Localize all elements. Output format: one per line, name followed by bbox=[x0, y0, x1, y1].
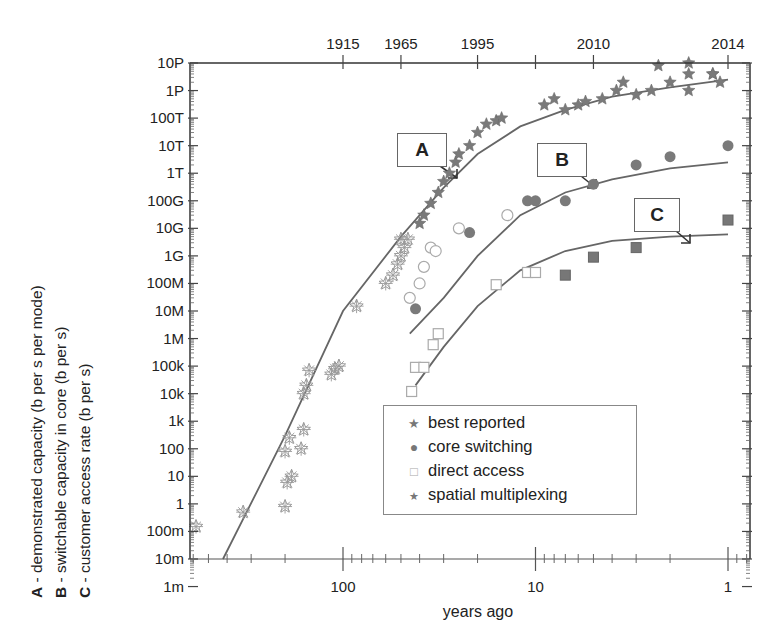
square-marker bbox=[723, 215, 733, 225]
circle-open-marker bbox=[418, 261, 429, 272]
legend: ★best reported ●core switching □direct a… bbox=[383, 405, 637, 515]
callout-c: C bbox=[634, 198, 680, 232]
circle-marker bbox=[410, 303, 421, 314]
star-marker bbox=[538, 99, 550, 111]
y-tick-label: 1G bbox=[164, 247, 184, 264]
y-tick-label: 1k bbox=[168, 412, 184, 429]
star-marker bbox=[596, 92, 608, 104]
callout-a: A bbox=[397, 133, 447, 167]
y-tick-label: 100k bbox=[151, 357, 184, 374]
asterisk-marker bbox=[285, 469, 299, 483]
square-open-marker bbox=[433, 329, 443, 339]
y-tick-label: 100m bbox=[146, 522, 184, 539]
square-open-marker bbox=[531, 267, 541, 277]
y-tick-label: 10M bbox=[155, 302, 184, 319]
y-tick-label: 1M bbox=[163, 330, 184, 347]
legend-item-best-reported: ★best reported bbox=[406, 413, 525, 432]
star-icon: ★ bbox=[406, 490, 422, 503]
chart-canvas: 10P1P100T10T1T100G10G1G100M10M1M100k10k1… bbox=[0, 0, 771, 638]
square-open-marker bbox=[407, 386, 417, 396]
square-marker bbox=[631, 243, 641, 253]
asterisk-marker bbox=[332, 359, 346, 373]
circle-marker bbox=[665, 151, 676, 162]
top-tick-label: 2014 bbox=[711, 35, 744, 52]
y-tick-label: 1m bbox=[163, 578, 184, 595]
top-tick-label: 1915 bbox=[326, 35, 359, 52]
star-marker bbox=[617, 76, 629, 88]
curve-C bbox=[416, 234, 729, 385]
asterisk-marker bbox=[294, 442, 308, 456]
circle-marker bbox=[723, 140, 734, 151]
circle-open-marker bbox=[430, 246, 441, 257]
star-marker bbox=[683, 68, 695, 80]
y-tick-label: 100T bbox=[150, 109, 184, 126]
star-marker bbox=[413, 217, 425, 229]
asterisk-marker bbox=[350, 299, 364, 313]
circle-marker bbox=[530, 195, 541, 206]
star-icon: ★ bbox=[406, 416, 422, 431]
ylabel-b: B - switchable capacity in core (b per s… bbox=[52, 327, 70, 598]
ylabel-c: C - customer access rate (b per s) bbox=[76, 364, 94, 598]
asterisk-marker bbox=[278, 444, 292, 458]
asterisk-marker bbox=[379, 276, 393, 290]
star-marker bbox=[664, 76, 676, 88]
y-tick-label: 1P bbox=[166, 82, 184, 99]
asterisk-marker bbox=[299, 378, 313, 392]
legend-item-spatial-multiplexing: ★spatial multiplexing bbox=[406, 485, 567, 504]
y-tick-label: 100G bbox=[147, 192, 184, 209]
y-tick-label: 10 bbox=[167, 467, 184, 484]
x-tick-label: 1 bbox=[724, 578, 732, 595]
circle-icon: ● bbox=[406, 439, 422, 455]
y-tick-label: 100M bbox=[146, 274, 184, 291]
top-tick-label: 2010 bbox=[577, 35, 610, 52]
star-marker bbox=[652, 59, 664, 71]
top-tick-label: 1995 bbox=[461, 35, 494, 52]
star-marker bbox=[453, 148, 465, 160]
asterisk-marker bbox=[282, 431, 296, 445]
y-tick-label: 10T bbox=[158, 137, 184, 154]
legend-item-core-switching: ●core switching bbox=[406, 437, 533, 456]
y-tick-label: 10P bbox=[157, 54, 184, 71]
asterisk-marker bbox=[278, 500, 292, 514]
square-open-marker bbox=[428, 340, 438, 350]
square-icon: □ bbox=[406, 464, 422, 479]
circle-marker bbox=[631, 159, 642, 170]
star-marker bbox=[471, 126, 483, 138]
ylabel-a: A - demonstrated capacity (b per s per m… bbox=[28, 285, 46, 598]
asterisk-marker bbox=[302, 363, 316, 377]
y-tick-label: 1T bbox=[166, 164, 184, 181]
legend-item-direct-access: □direct access bbox=[406, 461, 524, 480]
y-tick-label: 100 bbox=[159, 440, 184, 457]
circle-open-marker bbox=[414, 278, 425, 289]
star-marker bbox=[707, 68, 719, 80]
y-tick-label: 1 bbox=[176, 495, 184, 512]
star-marker bbox=[463, 139, 475, 151]
asterisk-marker bbox=[401, 232, 415, 246]
asterisk-marker bbox=[297, 387, 311, 401]
x-tick-label: 100 bbox=[330, 578, 355, 595]
circle-open-marker bbox=[502, 210, 513, 221]
square-open-marker bbox=[419, 362, 429, 372]
circle-open-marker bbox=[404, 292, 415, 303]
circle-marker bbox=[588, 179, 599, 190]
curve-B bbox=[410, 162, 728, 333]
star-marker bbox=[630, 88, 642, 100]
asterisk-marker bbox=[297, 423, 311, 437]
circle-marker bbox=[464, 227, 475, 238]
circle-marker bbox=[560, 195, 571, 206]
square-marker bbox=[560, 270, 570, 280]
x-axis-title: years ago bbox=[443, 603, 513, 620]
y-tick-label: 10m bbox=[155, 550, 184, 567]
star-marker bbox=[645, 84, 657, 96]
square-open-marker bbox=[491, 280, 501, 290]
asterisk-marker bbox=[236, 505, 250, 519]
top-tick-label: 1965 bbox=[384, 35, 417, 52]
y-tick-label: 10G bbox=[156, 219, 184, 236]
star-marker bbox=[559, 103, 571, 115]
star-marker bbox=[548, 92, 560, 104]
square-marker bbox=[588, 252, 598, 262]
y-tick-label: 10k bbox=[160, 385, 185, 402]
x-tick-label: 10 bbox=[527, 578, 544, 595]
circle-open-marker bbox=[453, 223, 464, 234]
callout-b: B bbox=[537, 143, 587, 177]
